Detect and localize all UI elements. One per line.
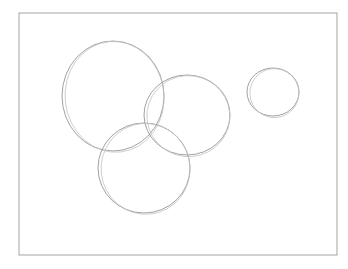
pencil-sketch-canvas <box>0 0 348 269</box>
circle-group <box>60 36 302 218</box>
sketch-frame <box>19 13 337 255</box>
circle-middle-right-sketch-line <box>143 72 234 161</box>
circle-bottom <box>98 123 190 213</box>
circle-bottom-sketch-line <box>97 119 195 219</box>
